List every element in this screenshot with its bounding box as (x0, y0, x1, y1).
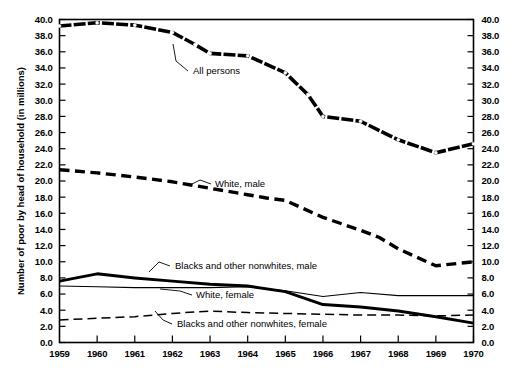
y-axis-title: Number of poor by head of household (in … (15, 67, 26, 295)
y-tick-label-right: 30.0 (482, 95, 500, 106)
annotation-leader-4 (155, 311, 172, 324)
x-tick-label: 1959 (49, 348, 69, 359)
y-tick-label-right: 20.0 (482, 175, 500, 186)
series-marker (193, 43, 196, 46)
annotation-leader-3 (160, 289, 192, 295)
x-tick-label: 1965 (275, 348, 296, 359)
series-layer (58, 21, 475, 323)
y-tick-label-left: 26.0 (35, 127, 53, 138)
y-tick-label-left: 28.0 (35, 111, 53, 122)
y-tick-label-left: 10.0 (35, 256, 53, 267)
y-tick-label-right: 38.0 (482, 30, 500, 41)
y-tick-label-right: 40.0 (482, 14, 500, 25)
series-marker (133, 24, 136, 27)
annotation-label-1: White, male (215, 178, 265, 189)
annotation-label-2: Blacks and other nonwhites, male (175, 260, 317, 271)
x-tick-label: 1962 (162, 348, 182, 359)
y-tick-label-right: 36.0 (482, 46, 500, 57)
series-marker (171, 31, 174, 34)
annotation-leader-2 (149, 262, 170, 272)
y-tick-label-left: 20.0 (35, 175, 53, 186)
y-tick-label-left: 0.0 (40, 337, 53, 348)
y-tick-label-right: 10.0 (482, 256, 500, 267)
series-marker (96, 21, 99, 24)
y-tick-label-right: 2.0 (482, 321, 495, 332)
y-tick-label-right: 32.0 (482, 79, 500, 90)
series-marker (58, 24, 61, 27)
y-tick-label-right: 28.0 (482, 111, 500, 122)
axes-layer (60, 20, 474, 343)
series-marker (397, 138, 400, 141)
annotation-leader-0 (173, 44, 188, 71)
series-marker (246, 54, 249, 57)
series-marker (359, 120, 362, 123)
poverty-line-chart: All personsWhite, maleBlacks and other n… (0, 0, 513, 373)
series-line-1 (60, 170, 474, 266)
y-tick-label-left: 34.0 (35, 62, 53, 73)
x-tick-label: 1964 (238, 348, 259, 359)
x-tick-label: 1968 (388, 348, 408, 359)
x-tick-label: 1960 (87, 348, 107, 359)
y-tick-label-right: 6.0 (482, 288, 495, 299)
y-tick-label-left: 36.0 (35, 46, 53, 57)
y-tick-label-left: 40.0 (35, 14, 53, 25)
series-line-0 (60, 23, 474, 153)
y-tick-label-right: 24.0 (482, 143, 500, 154)
y-tick-label-right: 4.0 (482, 305, 495, 316)
series-marker (472, 142, 475, 145)
y-tick-label-right: 14.0 (482, 224, 500, 235)
y-tick-label-right: 18.0 (482, 192, 500, 203)
y-tick-label-left: 16.0 (35, 208, 53, 219)
y-tick-label-left: 2.0 (40, 321, 53, 332)
series-marker (209, 52, 212, 55)
y-tick-label-left: 6.0 (40, 288, 53, 299)
y-tick-label-right: 26.0 (482, 127, 500, 138)
y-tick-label-right: 22.0 (482, 159, 500, 170)
y-tick-label-right: 0.0 (482, 337, 495, 348)
y-tick-label-left: 32.0 (35, 79, 53, 90)
chart-container: All personsWhite, maleBlacks and other n… (0, 0, 513, 373)
y-tick-label-left: 4.0 (40, 305, 53, 316)
plot-frame (60, 20, 474, 343)
annotation-label-0: All persons (193, 65, 240, 76)
x-tick-label: 1961 (125, 348, 146, 359)
annotation-label-3: White, female (196, 289, 254, 300)
y-tick-label-left: 22.0 (35, 159, 53, 170)
y-tick-label-right: 8.0 (482, 272, 495, 283)
y-tick-label-right: 12.0 (482, 240, 500, 251)
annotation-label-4: Blacks and other nonwhites, female (177, 318, 327, 329)
y-tick-label-left: 24.0 (35, 143, 53, 154)
x-tick-label: 1969 (426, 348, 446, 359)
y-tick-label-left: 14.0 (35, 224, 53, 235)
y-tick-label-right: 34.0 (482, 62, 500, 73)
series-marker (284, 71, 287, 74)
y-tick-label-left: 38.0 (35, 30, 53, 41)
x-tick-label: 1963 (200, 348, 220, 359)
series-marker (434, 151, 437, 154)
x-tick-label: 1970 (463, 348, 483, 359)
y-tick-label-right: 16.0 (482, 208, 500, 219)
series-marker (306, 93, 309, 96)
x-tick-label: 1967 (350, 348, 370, 359)
series-marker (321, 115, 324, 118)
y-tick-label-left: 30.0 (35, 95, 53, 106)
y-tick-label-left: 12.0 (35, 240, 53, 251)
y-tick-label-left: 8.0 (40, 272, 53, 283)
y-tick-label-left: 18.0 (35, 192, 53, 203)
x-tick-label: 1966 (313, 348, 333, 359)
